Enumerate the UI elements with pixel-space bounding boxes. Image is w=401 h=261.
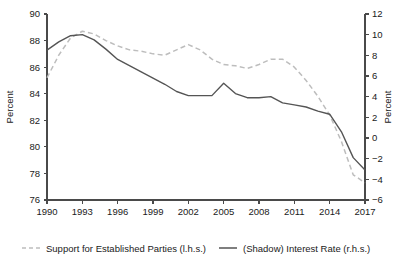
left-axis-title: Percent (4, 90, 15, 123)
x-axis-tick-label: 1999 (142, 206, 163, 217)
x-axis-tick-label: 2002 (178, 206, 199, 217)
left-axis-tick-label: 78 (29, 168, 40, 179)
left-axis-tick-label: 84 (29, 88, 40, 99)
right-axis-title: Percent (382, 90, 393, 123)
left-axis-tick-label: 82 (29, 115, 40, 126)
right-axis-tick-label: 4 (372, 91, 377, 102)
left-axis-tick-label: 80 (29, 141, 40, 152)
legend-label-2: (Shadow) Interest Rate (r.h.s.) (243, 243, 370, 254)
x-axis-tick-label: 2005 (213, 206, 234, 217)
x-axis-tick-label: 2011 (284, 206, 304, 217)
left-axis-tick-label: 88 (29, 35, 40, 46)
right-axis-tick-label: 12 (372, 8, 383, 19)
line-chart: 7678808284868890 −6−4−2024681012 1990199… (0, 0, 401, 261)
left-axis-tick-label: 86 (29, 62, 40, 73)
right-axis-tick-label: 2 (372, 112, 377, 123)
x-axis-tick-label: 2017 (354, 206, 375, 217)
x-axis: 1990199319961999200220052008201120142017 (36, 200, 375, 217)
x-axis-tick-label: 2008 (248, 206, 269, 217)
left-axis-tick-label: 76 (29, 194, 40, 205)
right-axis-tick-label: −6 (372, 194, 383, 205)
x-axis-tick-label: 1990 (36, 206, 57, 217)
right-axis-tick-label: 10 (372, 29, 383, 40)
chart-container: 7678808284868890 −6−4−2024681012 1990199… (0, 0, 401, 261)
x-axis-tick-label: 2014 (319, 206, 340, 217)
right-axis-tick-label: 8 (372, 50, 377, 61)
right-axis-tick-label: −2 (372, 153, 383, 164)
left-axis: 7678808284868890 (29, 8, 47, 205)
legend-label-1: Support for Established Parties (l.h.s.) (46, 243, 206, 254)
right-axis-tick-label: −4 (372, 174, 383, 185)
right-axis-tick-label: 0 (372, 132, 377, 143)
x-axis-tick-label: 1996 (107, 206, 128, 217)
left-axis-tick-label: 90 (29, 8, 40, 19)
series-lines (47, 31, 365, 182)
series-line-1 (47, 31, 365, 182)
chart-legend: Support for Established Parties (l.h.s.)… (22, 243, 370, 254)
x-axis-tick-label: 1993 (72, 206, 93, 217)
right-axis-tick-label: 6 (372, 70, 377, 81)
right-axis: −6−4−2024681012 (365, 8, 383, 205)
